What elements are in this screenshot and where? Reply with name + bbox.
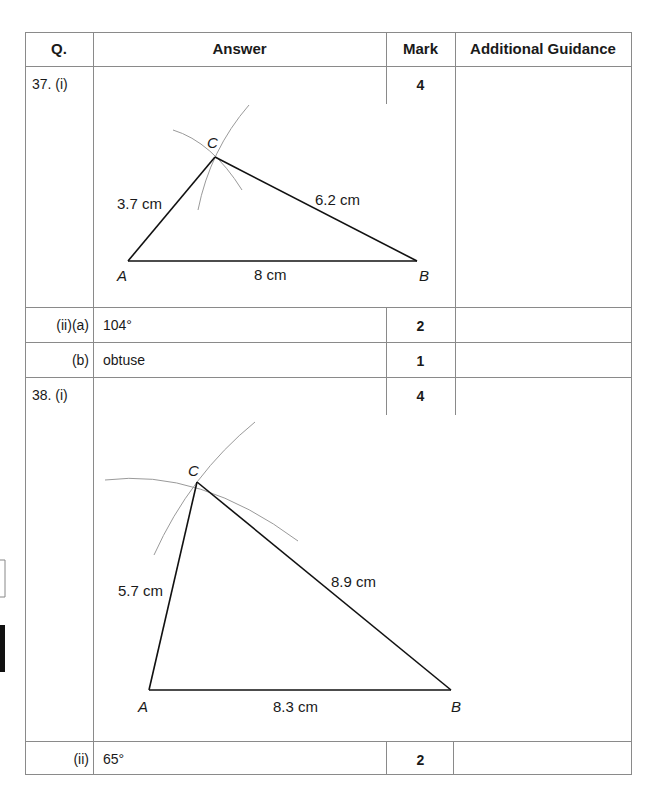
construction-arcs-38 (105, 422, 298, 555)
vertex-label-a: A (137, 698, 148, 715)
side-label-ab: 8 cm (254, 266, 287, 283)
triangle-38 (149, 482, 451, 690)
vertex-label-c: C (207, 134, 218, 151)
vertex-label-c: C (188, 462, 199, 479)
side-label-ac: 3.7 cm (117, 195, 162, 212)
margin-marks (0, 560, 5, 672)
triangle-37 (128, 157, 417, 261)
side-label-ac: 5.7 cm (118, 582, 163, 599)
side-label-ab: 8.3 cm (273, 698, 318, 715)
side-label-cb: 6.2 cm (315, 191, 360, 208)
triangle-diagrams: C A B 3.7 cm 6.2 cm 8 cm C A B 5.7 cm 8.… (0, 0, 652, 795)
vertex-label-b: B (451, 698, 461, 715)
side-label-cb: 8.9 cm (331, 573, 376, 590)
vertex-label-b: B (419, 267, 429, 284)
vertex-label-a: A (116, 267, 127, 284)
